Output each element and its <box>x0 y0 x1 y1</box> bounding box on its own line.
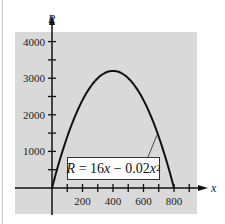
y-tick-label: 3000 <box>23 72 46 84</box>
x-axis-arrow-icon <box>198 185 208 191</box>
plot-background <box>15 32 197 214</box>
x-tick-label: 600 <box>135 195 152 207</box>
y-axis-label: R <box>47 12 56 26</box>
x-tick-label: 200 <box>74 195 91 207</box>
x-tick-label: 400 <box>105 195 122 207</box>
x-tick-label: 800 <box>166 195 183 207</box>
x-axis-label: x <box>210 181 217 195</box>
equation-r: R <box>67 161 76 177</box>
chart: 1000200030004000 200400600800 R x <box>0 0 225 224</box>
y-tick-label: 2000 <box>23 109 46 121</box>
y-tick-label: 1000 <box>23 145 46 157</box>
equation-equals: = 16 <box>75 161 104 177</box>
y-tick-label: 4000 <box>23 36 46 48</box>
equation-label: R = 16 x − 0.02 x 2 <box>67 157 160 180</box>
equation-minus: − 0.02 <box>110 161 149 177</box>
equation-exponent: 2 <box>156 163 161 173</box>
